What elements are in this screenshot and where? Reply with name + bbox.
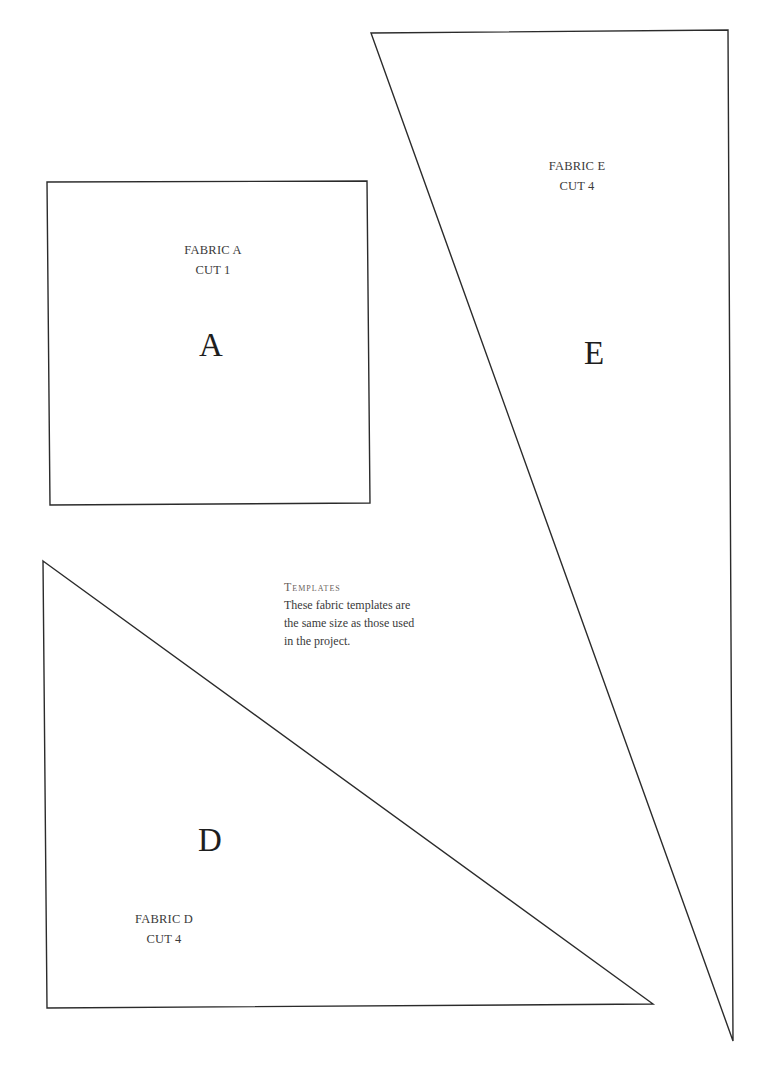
- template-a-label: FABRIC A CUT 1: [184, 240, 241, 280]
- template-e-label: FABRIC E CUT 4: [549, 156, 606, 196]
- templates-note: Templates These fabric templates are the…: [284, 580, 444, 650]
- template-outlines: [0, 0, 768, 1076]
- template-a-letter: A: [199, 329, 223, 362]
- template-d-cut: CUT 4: [135, 929, 193, 949]
- templates-note-line: in the project.: [284, 632, 444, 650]
- template-a-cut: CUT 1: [184, 260, 241, 280]
- template-e-fabric: FABRIC E: [549, 156, 606, 176]
- template-d-letter: D: [198, 824, 222, 857]
- templates-note-heading: Templates: [284, 580, 444, 594]
- templates-note-line: These fabric templates are: [284, 596, 444, 614]
- template-e-letter: E: [584, 337, 604, 370]
- template-e-cut: CUT 4: [549, 176, 606, 196]
- template-d-fabric: FABRIC D: [135, 909, 193, 929]
- template-d-label: FABRIC D CUT 4: [135, 909, 193, 949]
- templates-note-line: the same size as those used: [284, 614, 444, 632]
- template-a-fabric: FABRIC A: [184, 240, 241, 260]
